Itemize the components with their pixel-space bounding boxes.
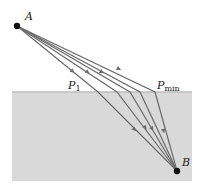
label-A: A xyxy=(24,10,33,23)
label-P1-sub: 1 xyxy=(75,84,80,93)
lower-medium xyxy=(12,92,192,181)
label-Pmin: Pmin xyxy=(156,79,180,93)
point-B xyxy=(174,168,180,174)
label-P1: P1 xyxy=(67,79,81,93)
refraction-diagram: A B P1 Pmin xyxy=(0,0,201,188)
label-Pmin-sub: min xyxy=(164,84,179,93)
arrow-icon xyxy=(116,66,122,72)
upper-arrows xyxy=(70,66,122,75)
label-B: B xyxy=(181,156,190,169)
point-A xyxy=(14,23,20,29)
